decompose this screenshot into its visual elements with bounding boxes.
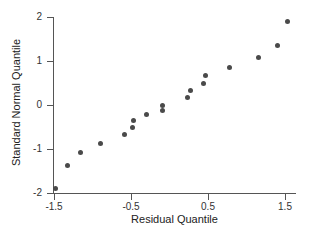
- y-tick-label: 0: [20, 100, 42, 110]
- x-tick-mark: [285, 194, 286, 200]
- qq-plot-figure: 210-1-2 -1.5-0.50.51.5 Residual Quantile…: [0, 0, 309, 232]
- data-point: [98, 141, 103, 146]
- y-tick-mark: [47, 105, 53, 106]
- data-point: [185, 95, 190, 100]
- data-point: [160, 103, 165, 108]
- x-tick-label: 0.5: [188, 201, 228, 212]
- data-point: [201, 81, 206, 86]
- x-tick-mark: [131, 194, 132, 200]
- data-point: [130, 125, 135, 130]
- data-point: [122, 132, 127, 137]
- x-axis-title: Residual Quantile: [53, 213, 296, 226]
- y-tick-mark: [47, 17, 53, 18]
- x-tick-label: -0.5: [111, 201, 151, 212]
- y-tick-mark: [47, 193, 53, 194]
- data-point: [256, 55, 261, 60]
- data-point: [227, 65, 232, 70]
- data-point: [203, 73, 208, 78]
- data-point: [188, 88, 193, 93]
- plot-area: [54, 17, 296, 193]
- x-tick-label: -1.5: [34, 201, 74, 212]
- data-point: [285, 19, 290, 24]
- data-point: [160, 108, 165, 113]
- data-point: [78, 150, 83, 155]
- x-tick-label: 1.5: [265, 201, 305, 212]
- y-tick-label: 2: [20, 12, 42, 22]
- y-tick-mark: [47, 149, 53, 150]
- x-tick-mark: [208, 194, 209, 200]
- y-tick-label: -2: [20, 188, 42, 198]
- y-tick-label: -1: [20, 144, 42, 154]
- data-point: [131, 118, 136, 123]
- y-tick-label: 1: [20, 56, 42, 66]
- data-point: [144, 112, 149, 117]
- data-point: [53, 186, 58, 191]
- data-point: [275, 43, 280, 48]
- data-point: [65, 163, 70, 168]
- x-axis-line: [53, 193, 296, 194]
- y-tick-mark: [47, 61, 53, 62]
- x-tick-mark: [54, 194, 55, 200]
- y-axis-title: Standard Normal Quantile: [10, 13, 23, 193]
